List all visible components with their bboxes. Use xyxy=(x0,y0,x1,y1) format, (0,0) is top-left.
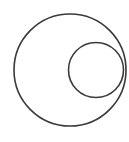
nested-circles-diagram xyxy=(0,0,129,142)
inner-circle xyxy=(69,43,124,98)
outer-circle xyxy=(14,14,126,126)
diagram-canvas xyxy=(0,0,129,142)
